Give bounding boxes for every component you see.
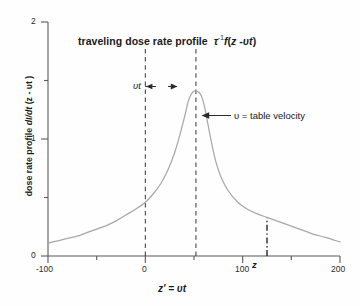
chart-title-plain: traveling dose rate profile (78, 35, 208, 47)
x-tick-label-100: 100 (235, 264, 249, 274)
y-axis-ticks (41, 22, 48, 256)
vt-annotation-label: υt (133, 80, 141, 91)
y-axis-title-post: (z - υt ) (24, 76, 34, 107)
x-axis-ticks (48, 256, 340, 263)
y-tick-label-0: 0 (31, 250, 36, 260)
y-tick-label-1: 1 (31, 133, 36, 143)
vt-span-arrow (145, 84, 177, 90)
chart-title-close-paren: ) (253, 35, 257, 47)
table-velocity-annotation-label: υ = table velocity (234, 110, 305, 121)
x-tick-label-200: 200 (331, 264, 345, 274)
x-axis-title: z' = υt (158, 283, 186, 294)
z-marker-label: z (252, 259, 257, 270)
axis-lines (48, 22, 340, 256)
x-axis-title-equals: = (165, 283, 176, 294)
x-tick-label-0: 0 (142, 264, 147, 274)
x-tick-label-minus100: -100 (36, 264, 53, 274)
y-tick-label-2: 2 (31, 16, 36, 26)
y-axis-title-math: dI/dt (24, 107, 34, 126)
figure-container: traveling dose rate profile τ-1f(z -υt) … (0, 0, 360, 306)
chart-title: traveling dose rate profile τ-1f(z -υt) (78, 34, 256, 47)
x-axis-title-t: t (183, 283, 186, 294)
